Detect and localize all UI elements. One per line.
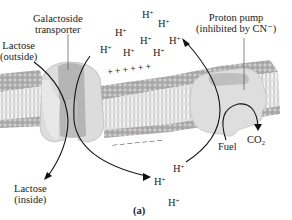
proton-label: H+ <box>115 26 127 38</box>
co2-arrowhead <box>254 124 262 131</box>
proton-label: H+ <box>158 17 170 29</box>
co2-label: CO₂ <box>247 134 265 145</box>
proton-pump-label: Proton pump (inhibited by CN⁻) <box>196 12 276 34</box>
proton-label: H+ <box>153 46 165 58</box>
proton-label: H+ <box>142 8 154 20</box>
proton-label: H+ <box>140 34 152 46</box>
fuel-label: Fuel <box>218 141 237 152</box>
proton-pump-protein <box>190 68 267 136</box>
lactose-outside-label: Lactose (outside) <box>0 40 37 62</box>
proton-label: H+ <box>169 34 181 46</box>
transporter-label: Galactoside transporter <box>33 13 83 35</box>
proton-label: H+ <box>154 175 166 187</box>
proton-label: H+ <box>173 162 185 174</box>
figure-caption: (a) <box>133 205 145 216</box>
proton-label: H+ <box>168 196 180 208</box>
lactose-arrowhead <box>44 172 52 180</box>
proton-label: H+ <box>123 46 135 58</box>
proton-influx-arrowhead <box>143 173 151 181</box>
membrane-left <box>0 70 46 128</box>
galactoside-transporter-protein <box>40 62 104 142</box>
proton-label: H+ <box>100 43 112 55</box>
lactose-inside-label: Lactose (inside) <box>14 183 47 205</box>
lactose-transport-diagram: Galactoside transporter Lactose (outside… <box>0 0 292 220</box>
